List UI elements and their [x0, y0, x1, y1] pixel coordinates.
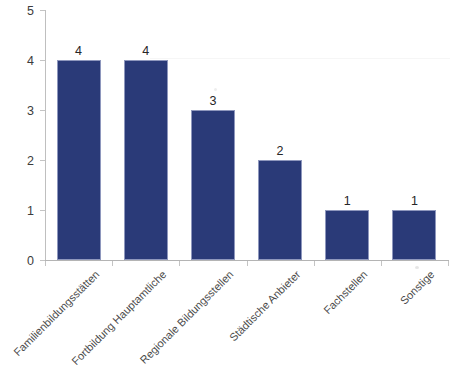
bar: 4: [124, 60, 168, 260]
x-axis-tick-mark: [381, 261, 382, 266]
bar-value-label: 1: [411, 195, 418, 208]
bar-value-label: 4: [142, 45, 149, 58]
bar-value-label: 1: [344, 195, 351, 208]
x-axis-category-label: Fachstellen: [321, 268, 369, 316]
bar-value-label: 2: [277, 145, 284, 158]
x-axis-tick-mark: [112, 261, 113, 266]
scan-artifact-speck: [415, 266, 419, 269]
x-axis-tick-mark: [247, 261, 248, 266]
y-axis-tick-label: 5: [27, 4, 34, 17]
plot-area: 443211: [45, 10, 448, 260]
bar: 2: [258, 160, 302, 260]
bar-value-label: 3: [209, 95, 216, 108]
y-axis-tick-label: 1: [27, 204, 34, 217]
y-axis-tick-label: 3: [27, 104, 34, 117]
x-axis-tick-mark: [448, 261, 449, 266]
bar-chart: 012345 443211 FamilienbildungsstättenFor…: [0, 0, 464, 376]
bar: 3: [191, 110, 235, 260]
bar: 4: [57, 60, 101, 260]
x-axis-category-label: Sonstige: [398, 268, 437, 307]
x-axis-tick-mark: [314, 261, 315, 266]
bar-value-label: 4: [75, 45, 82, 58]
x-axis-tick-mark: [45, 261, 46, 266]
y-axis-tick-label: 4: [27, 54, 34, 67]
bar: 1: [325, 210, 369, 260]
y-axis-tick-label: 2: [27, 154, 34, 167]
x-axis-category-label: Städtische Anbieter: [227, 268, 303, 344]
bar: 1: [392, 210, 436, 260]
x-axis-tick-mark: [179, 261, 180, 266]
y-axis-tick-label: 0: [27, 254, 34, 267]
